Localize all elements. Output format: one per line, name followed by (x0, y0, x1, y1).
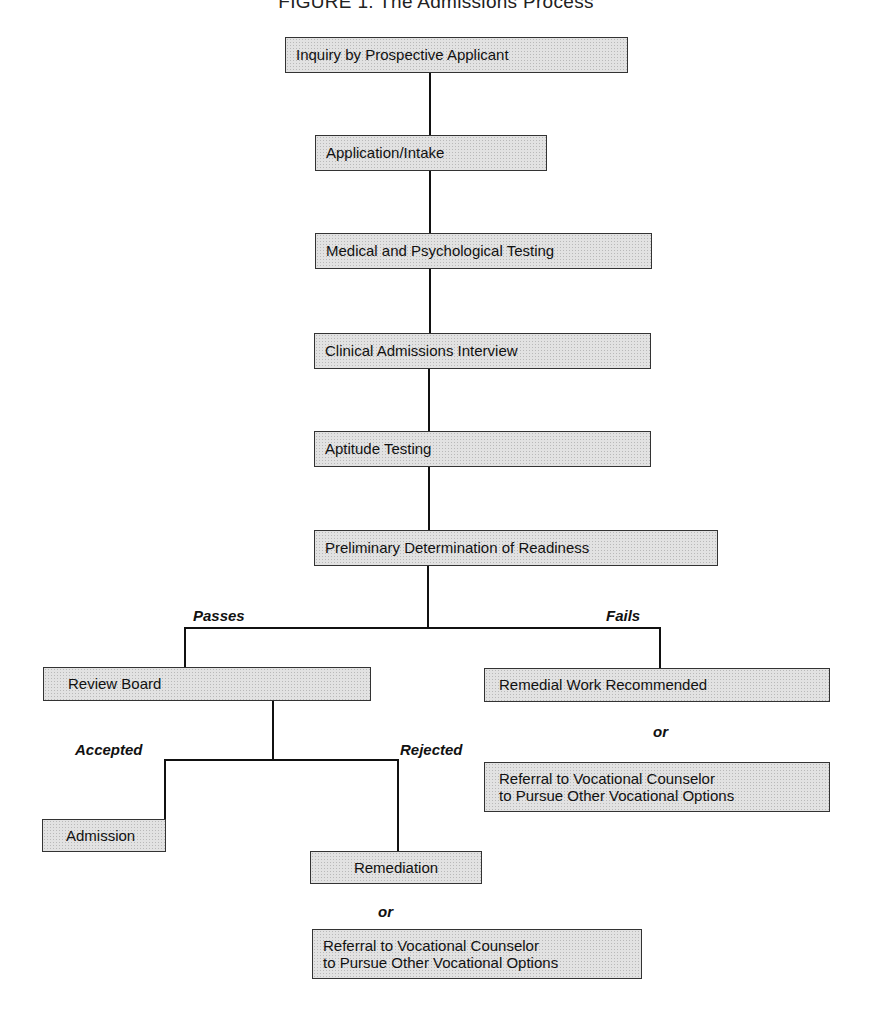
connector-inquiry-application (429, 73, 431, 135)
node-review-board-label: Review Board (68, 675, 161, 693)
node-referral-right-line1: Referral to Vocational Counselor (499, 770, 734, 787)
edge-label-passes: Passes (193, 607, 245, 624)
node-referral-bottom-line2: to Pursue Other Vocational Options (323, 954, 558, 971)
edge-label-or-right: or (653, 723, 668, 740)
node-remedial-work-label: Remedial Work Recommended (499, 676, 707, 694)
node-referral-right-line2: to Pursue Other Vocational Options (499, 787, 734, 804)
node-remedial-work: Remedial Work Recommended (484, 668, 830, 702)
connector-preliminary-split (427, 566, 429, 629)
node-aptitude-label: Aptitude Testing (325, 440, 431, 458)
node-preliminary: Preliminary Determination of Readiness (314, 530, 718, 566)
node-remediation: Remediation (310, 851, 482, 884)
node-application-label: Application/Intake (326, 144, 444, 162)
edge-label-rejected: Rejected (400, 741, 463, 758)
node-medical-label: Medical and Psychological Testing (326, 242, 554, 260)
connector-fails-down (659, 627, 661, 668)
node-aptitude: Aptitude Testing (314, 431, 651, 467)
node-clinical: Clinical Admissions Interview (314, 333, 651, 369)
node-clinical-label: Clinical Admissions Interview (325, 342, 518, 360)
connector-passes-down (184, 627, 186, 668)
connector-medical-clinical (429, 269, 431, 333)
node-medical: Medical and Psychological Testing (315, 233, 652, 269)
connector-accepted-down (164, 759, 166, 819)
connector-review-split (272, 701, 274, 760)
connector-clinical-aptitude (428, 369, 430, 431)
node-remediation-label: Remediation (354, 859, 438, 877)
edge-label-or-bottom: or (378, 903, 393, 920)
connector-rejected-down (397, 759, 399, 851)
node-referral-bottom: Referral to Vocational Counselor to Purs… (312, 929, 642, 979)
connector-application-medical (429, 171, 431, 233)
edge-label-fails: Fails (606, 607, 640, 624)
figure-title: FIGURE 1. The Admissions Process (0, 0, 872, 13)
node-preliminary-label: Preliminary Determination of Readiness (325, 539, 589, 557)
node-admission-label: Admission (66, 827, 135, 845)
node-inquiry: Inquiry by Prospective Applicant (285, 37, 628, 73)
node-inquiry-label: Inquiry by Prospective Applicant (296, 46, 509, 64)
node-referral-right: Referral to Vocational Counselor to Purs… (484, 762, 830, 812)
node-application: Application/Intake (315, 135, 547, 171)
node-review-board: Review Board (43, 667, 371, 701)
edge-label-accepted: Accepted (75, 741, 143, 758)
node-referral-bottom-line1: Referral to Vocational Counselor (323, 937, 558, 954)
node-admission: Admission (42, 819, 166, 852)
connector-accept-reject-horizontal (164, 759, 399, 761)
connector-aptitude-preliminary (428, 467, 430, 530)
connector-pass-fail-horizontal (184, 627, 661, 629)
